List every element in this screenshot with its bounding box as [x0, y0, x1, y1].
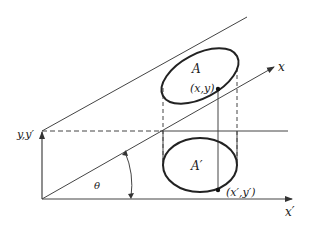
- x-axis: [42, 67, 274, 199]
- label-area-a-prime: A′: [190, 159, 203, 173]
- label-point-xy-prime: (x′,y′): [226, 186, 256, 199]
- label-axis-y: y,y′: [16, 128, 34, 141]
- projection-diagram: A (x,y) x y,y′ θ A′ (x′,y′) x′: [0, 0, 311, 225]
- plane-upper-edge: [42, 17, 247, 131]
- label-angle-theta: θ: [94, 180, 100, 191]
- label-axis-x-prime: x′: [285, 205, 295, 219]
- label-axis-x: x: [278, 60, 285, 74]
- point-xy: [216, 87, 220, 91]
- label-point-xy: (x,y): [190, 82, 215, 95]
- area-a-ellipse: [153, 37, 248, 115]
- point-xy-prime: [216, 188, 220, 192]
- angle-arc: [125, 152, 132, 197]
- angle-arrow-bottom: [128, 193, 134, 199]
- label-area-a: A: [191, 62, 201, 76]
